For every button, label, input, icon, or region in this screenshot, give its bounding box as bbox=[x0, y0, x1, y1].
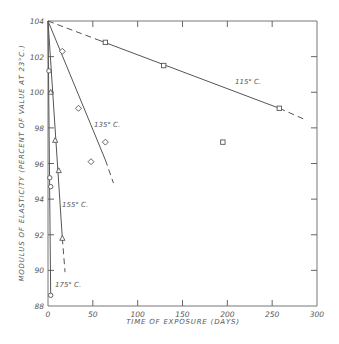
marker-diamond bbox=[102, 139, 108, 145]
series-labels: 115° C. 135° C. 155° C. 175° C. bbox=[55, 78, 261, 289]
x-ticks: 050100150200250300 bbox=[46, 21, 325, 319]
plot-area bbox=[48, 21, 317, 306]
y-tick-label: 90 bbox=[34, 266, 44, 275]
marker-diamond bbox=[75, 105, 81, 111]
marker-circle bbox=[48, 293, 52, 297]
fit-lines bbox=[48, 21, 304, 295]
marker-diamond bbox=[59, 48, 65, 54]
fit-line-extension bbox=[62, 238, 65, 272]
chart: 050100150200250300 889092949698100102104… bbox=[0, 0, 339, 344]
y-tick-label: 98 bbox=[34, 124, 44, 133]
marker-triangle bbox=[53, 138, 58, 143]
marker-square bbox=[103, 40, 107, 44]
series-label-135: 135° C. bbox=[94, 121, 120, 129]
marker-triangle bbox=[60, 236, 65, 241]
fit-line-extension bbox=[279, 108, 303, 119]
marker-circle bbox=[48, 176, 52, 180]
marker-square bbox=[277, 106, 281, 110]
fit-line-solid bbox=[99, 40, 279, 108]
y-tick-label: 94 bbox=[34, 195, 44, 204]
y-tick-label: 92 bbox=[34, 231, 44, 240]
x-tick-label: 50 bbox=[88, 310, 98, 319]
y-ticks: 889092949698100102104 bbox=[30, 17, 317, 311]
x-tick-label: 250 bbox=[265, 310, 280, 319]
fit-line-dashed bbox=[48, 21, 99, 40]
y-tick-label: 88 bbox=[34, 302, 44, 311]
series-label-155: 155° C. bbox=[62, 201, 88, 209]
y-tick-label: 104 bbox=[30, 17, 45, 26]
marker-triangle bbox=[56, 168, 61, 173]
y-tick-label: 102 bbox=[30, 53, 45, 62]
marker-circle bbox=[47, 69, 51, 73]
x-tick-label: 0 bbox=[46, 310, 51, 319]
series-label-175: 175° C. bbox=[55, 281, 81, 289]
fit-line-extension bbox=[105, 160, 113, 183]
y-axis-title: MODULUS OF ELASTICITY (PERCENT OF VALUE … bbox=[18, 44, 26, 281]
x-axis-title: TIME OF EXPOSURE (DAYS) bbox=[126, 318, 240, 326]
series-label-115: 115° C. bbox=[235, 78, 261, 86]
fit-line-solid bbox=[48, 21, 105, 160]
y-tick-label: 100 bbox=[30, 88, 45, 97]
marker-circle bbox=[48, 184, 52, 188]
marker-square bbox=[161, 63, 165, 67]
y-tick-label: 96 bbox=[34, 160, 44, 169]
marker-square bbox=[221, 140, 225, 144]
marker-diamond bbox=[88, 159, 94, 165]
x-tick-label: 300 bbox=[310, 310, 325, 319]
